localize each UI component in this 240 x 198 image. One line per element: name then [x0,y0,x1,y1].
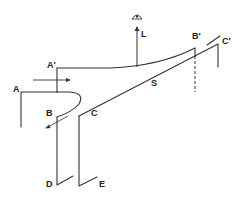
label-b: B [46,109,53,118]
eye-icon [132,15,142,19]
edge-c-c-prime [79,44,218,116]
flow-arrow [33,78,71,82]
edge-a-prime-b-prime [57,48,195,68]
arrow-up-icon [135,26,140,67]
edge-curve-a-b [57,92,81,117]
label-s: S [151,79,157,88]
edge-b-d [57,117,73,185]
edge-c-e [79,116,97,186]
label-c: C [91,109,98,118]
label-a: A [13,85,20,94]
label-e: E [99,180,105,189]
diagram-canvas [0,0,240,198]
label-b-prime: B′ [192,32,201,41]
label-a-prime: A′ [47,61,56,70]
label-l: L [141,30,147,39]
label-d: D [46,180,53,189]
label-c-prime: C′ [222,37,231,46]
